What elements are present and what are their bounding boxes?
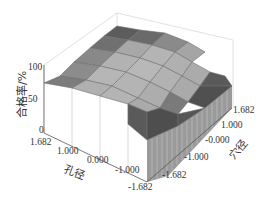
x-tick-2: 0.000 [87, 155, 109, 165]
x-axis-title: 孔径 [62, 163, 87, 183]
y-tick-3: -1.000 [184, 152, 209, 162]
y-tick-1: 1.000 [221, 120, 243, 130]
x-tick-1: 1.000 [57, 146, 79, 156]
z-axis-title: 合格率/% [15, 71, 29, 118]
y-tick-0: 1.682 [233, 105, 255, 115]
y-tick-2: -0.000 [205, 135, 230, 145]
x-tick-4: -1.682 [128, 182, 153, 192]
x-tick-0: 1.682 [30, 137, 52, 147]
surface-chart: 100 50 0 合格率/% 1.682 1.000 0.000 -1.000 … [0, 0, 266, 198]
z-tick-0: 0 [39, 125, 44, 135]
z-tick-100: 100 [28, 62, 43, 72]
z-tick-50: 50 [28, 94, 38, 104]
x-tick-3: -1.000 [115, 165, 140, 175]
y-tick-4: -1.682 [162, 170, 187, 180]
